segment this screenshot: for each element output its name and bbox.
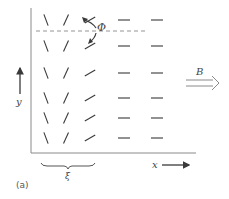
director-segment [85,70,95,76]
x-axis-label: x [152,160,158,170]
director-segment [85,95,95,101]
director-segment [64,93,69,104]
director-field-diagram [0,0,229,199]
angle-arrowhead-lower-icon [88,38,93,44]
field-b-arrow-icon [186,76,219,90]
director-segment [64,113,69,124]
angle-arc-upper-icon [84,20,96,28]
director-segment [64,68,69,79]
director-segment [44,92,48,103]
director-segment [64,41,69,52]
director-segment [85,43,95,49]
period-brace-icon [41,163,95,169]
y-axis-label: y [16,97,22,107]
period-xi-label: ξ [65,172,70,181]
field-b-label: B [196,67,203,77]
director-segment [64,15,69,26]
director-segment [44,14,48,25]
director-segment [44,40,48,51]
director-segment [85,135,95,141]
director-segment [44,132,48,143]
director-segment [64,133,69,144]
director-segment [44,67,48,78]
director-segment [85,115,95,121]
angle-phi-label: Φ [97,22,106,33]
director-segment [44,112,48,123]
panel-label: (a) [16,181,29,190]
